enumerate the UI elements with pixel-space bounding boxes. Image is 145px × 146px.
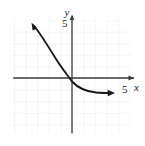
graph-canvas: y 5 5 x: [0, 0, 145, 146]
y-tick-label-5: 5: [62, 17, 68, 29]
graph-figure: y 5 5 x: [0, 0, 145, 146]
x-axis-arrowhead: [129, 76, 135, 81]
x-axis-label: x: [133, 81, 139, 93]
y-axis-arrowhead: [70, 15, 75, 21]
x-tick-label-5: 5: [122, 83, 128, 95]
y-axis-label: y: [64, 6, 70, 18]
